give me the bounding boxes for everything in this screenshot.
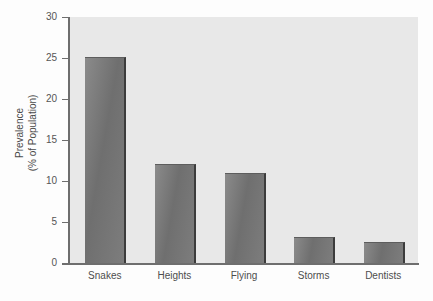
- x-axis-label-heights: Heights: [157, 270, 191, 281]
- x-axis-category-labels: SnakesHeightsFlyingStormsDentists: [70, 270, 418, 288]
- y-axis-tick-labels: 051015202530: [30, 0, 57, 301]
- y-axis-title-line-1: Prevalence: [13, 94, 26, 171]
- x-axis-line: [62, 263, 419, 265]
- y-axis-tick-label: 15: [30, 135, 57, 145]
- bar-heights: [155, 164, 196, 263]
- x-axis-label-snakes: Snakes: [88, 270, 121, 281]
- x-axis-label-flying: Flying: [231, 270, 258, 281]
- y-axis-tick-label: 5: [30, 217, 57, 227]
- y-axis-tick-label: 0: [30, 258, 57, 268]
- bar-dentists: [364, 242, 405, 264]
- x-axis-label-storms: Storms: [298, 270, 330, 281]
- bar-storms: [294, 237, 335, 263]
- y-axis-tick-label: 10: [30, 176, 57, 186]
- bar-chart-figure: Prevalence (% of Population) 05101520253…: [0, 0, 433, 301]
- bar-flying: [225, 173, 266, 263]
- bar-snakes: [85, 57, 126, 263]
- y-axis-tick-label: 25: [30, 53, 57, 63]
- x-axis-label-dentists: Dentists: [365, 270, 401, 281]
- plot-area: [70, 17, 418, 263]
- y-axis-tick-label: 30: [30, 12, 57, 22]
- y-axis-tick-label: 20: [30, 94, 57, 104]
